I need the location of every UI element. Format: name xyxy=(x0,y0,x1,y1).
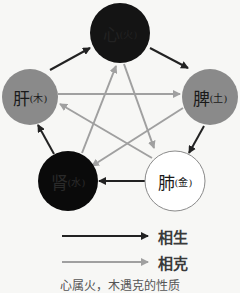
caption-text: 心属火，木遇克的性质 xyxy=(0,276,240,293)
node-heart: 心(火) xyxy=(90,23,150,43)
organ-label: 肝 xyxy=(13,85,30,110)
arrow-liver-to-heart xyxy=(50,48,90,70)
arrow-kidney-to-liver xyxy=(38,125,54,154)
element-label: (土) xyxy=(210,90,228,105)
element-label: (火) xyxy=(120,26,138,41)
organ-label: 肾 xyxy=(51,169,68,194)
arrow-heart-to-spleen xyxy=(150,48,188,68)
organ-label: 脾 xyxy=(193,85,210,110)
element-label: (金) xyxy=(175,174,193,189)
organ-label: 心 xyxy=(103,21,120,46)
organ-label: 肺 xyxy=(158,169,175,194)
arrow-lung-to-liver xyxy=(60,104,152,158)
node-spleen: 脾(土) xyxy=(182,87,238,107)
arrow-kidney-to-heart xyxy=(82,66,116,153)
element-label: (木) xyxy=(30,90,48,105)
legend-restrain-label: 相克 xyxy=(158,252,188,273)
arrow-spleen-to-lung xyxy=(189,126,204,153)
legend-generate-label: 相生 xyxy=(158,226,188,247)
element-label: (水) xyxy=(68,174,86,189)
node-lung: 肺(金) xyxy=(145,171,205,191)
node-liver: 肝(木) xyxy=(2,87,58,107)
node-kidney: 肾(水) xyxy=(38,171,98,191)
restrain-arrows xyxy=(58,64,183,166)
